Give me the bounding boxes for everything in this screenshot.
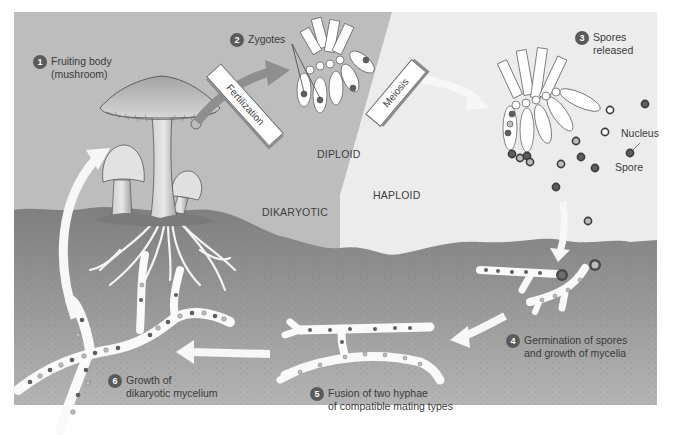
life-cycle-diagram: 1Fruiting body(mushroom) 2Zygotes 3Spore… xyxy=(0,0,679,435)
step-6-line1: Growth of xyxy=(126,374,172,386)
step-3-line2: released xyxy=(593,44,633,56)
step-1-line1: Fruiting body xyxy=(51,55,112,67)
step-3-badge: 3 xyxy=(575,31,589,45)
step-5-label: 5Fusion of two hyphaeof compatible matin… xyxy=(310,387,453,413)
step-4-badge: 4 xyxy=(506,334,520,348)
step-2-badge: 2 xyxy=(230,33,244,47)
nucleus-callout: Nucleus xyxy=(621,127,659,140)
zone-dikaryotic: DIKARYOTIC xyxy=(262,206,328,218)
zone-haploid: HAPLOID xyxy=(373,189,421,201)
step-3-label: 3Sporesreleased xyxy=(575,31,633,57)
step-5-line1: Fusion of two hyphae xyxy=(328,387,428,399)
step-5-line2: of compatible mating types xyxy=(328,400,453,412)
step-3-line1: Spores xyxy=(593,31,626,43)
step-2-line1: Zygotes xyxy=(248,33,285,45)
step-1-label: 1Fruiting body(mushroom) xyxy=(33,55,112,81)
step-1-line2: (mushroom) xyxy=(51,68,108,80)
spore-callout: Spore xyxy=(615,161,643,174)
zone-diploid: DIPLOID xyxy=(317,148,360,160)
step-1-badge: 1 xyxy=(33,55,47,69)
step-4-line2: and growth of mycelia xyxy=(524,347,626,359)
step-2-label: 2Zygotes xyxy=(230,33,285,47)
step-4-label: 4Germination of sporesand growth of myce… xyxy=(506,334,627,360)
step-4-line1: Germination of spores xyxy=(524,334,627,346)
step-6-label: 6Growth ofdikaryotic mycelium xyxy=(108,374,218,400)
step-5-badge: 5 xyxy=(310,387,324,401)
step-6-line2: dikaryotic mycelium xyxy=(126,387,218,399)
step-6-badge: 6 xyxy=(108,374,122,388)
